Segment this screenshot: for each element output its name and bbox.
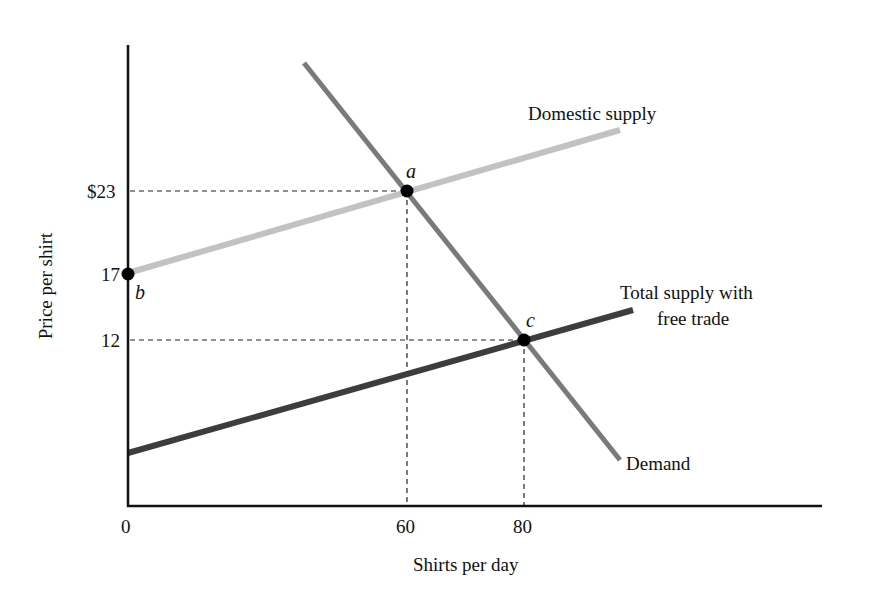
point-a — [401, 185, 414, 198]
y-tick-12: 12 — [101, 331, 120, 350]
point-a-label: a — [406, 161, 416, 181]
y-axis-label: Price per shirt — [35, 233, 57, 340]
demand-label: Demand — [626, 454, 690, 473]
x-axis-label: Shirts per day — [413, 555, 519, 574]
x-tick-60: 60 — [396, 517, 415, 536]
total-supply-label-line2: free trade — [657, 309, 729, 328]
point-c — [518, 334, 531, 347]
reference-lines — [130, 191, 524, 506]
domestic-supply-label: Domestic supply — [528, 104, 656, 123]
point-b — [122, 268, 135, 281]
point-b-label: b — [135, 282, 145, 302]
x-tick-0: 0 — [121, 517, 131, 536]
point-c-label: c — [526, 310, 535, 330]
x-tick-80: 80 — [513, 517, 532, 536]
y-tick-23: $23 — [87, 182, 116, 201]
y-tick-17: 17 — [101, 265, 120, 284]
total-supply-label-line1: Total supply with — [620, 283, 753, 302]
